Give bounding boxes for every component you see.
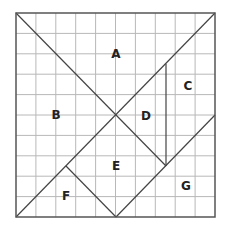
piece-label-d: D [141, 109, 151, 123]
tangram-square-figure: ABCDEFG [0, 0, 226, 231]
piece-label-e: E [112, 159, 120, 173]
piece-label-a: A [111, 47, 121, 61]
piece-label-f: F [62, 189, 70, 203]
piece-label-b: B [51, 108, 60, 122]
tangram-diagram: ABCDEFG [0, 0, 226, 231]
diag-topleft-to-center-low [16, 13, 166, 166]
diag-f-e-divider [66, 166, 116, 217]
piece-label-c: C [184, 79, 193, 93]
piece-label-g: G [181, 179, 191, 193]
